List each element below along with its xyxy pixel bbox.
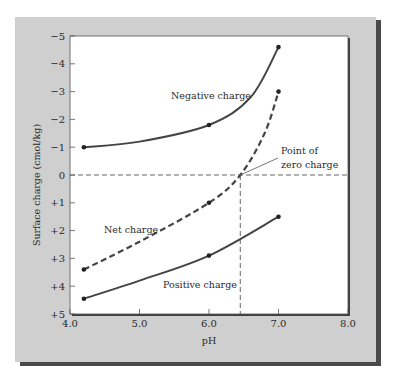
- chart-svg: −5−4−3−2−10+1+2+3+4+5 4.05.06.07.08.0 Ne…: [0, 0, 395, 386]
- figure: −5−4−3−2−10+1+2+3+4+5 4.05.06.07.08.0 Ne…: [0, 0, 395, 386]
- x-tick-label: 4.0: [62, 318, 78, 329]
- y-tick-label: −5: [50, 31, 65, 42]
- y-tick-label: +2: [50, 225, 65, 236]
- data-point-marker: [207, 201, 212, 206]
- data-point-marker: [82, 296, 87, 301]
- x-tick-label: 6.0: [201, 318, 217, 329]
- y-tick-label: −2: [50, 114, 65, 125]
- data-point-marker: [276, 214, 281, 219]
- y-axis-title: Surface charge (cmol/kg): [31, 124, 42, 246]
- x-tick-label: 8.0: [340, 318, 356, 329]
- y-tick-label: +3: [50, 253, 65, 264]
- data-point-marker: [82, 267, 87, 272]
- negative-charge-label: Negative charge: [171, 90, 251, 101]
- y-tick-label: +4: [50, 281, 65, 292]
- y-tick-label: +1: [50, 197, 65, 208]
- pzc-label-line1: Point of: [281, 145, 319, 156]
- data-point-marker: [276, 45, 281, 50]
- y-tick-label: −3: [50, 86, 65, 97]
- data-point-marker: [82, 145, 87, 150]
- y-tick-label: 0: [59, 170, 65, 181]
- y-tick-label: −1: [50, 142, 65, 153]
- x-tick-label: 7.0: [271, 318, 287, 329]
- data-point-marker: [276, 89, 281, 94]
- y-tick-label: −4: [50, 58, 65, 69]
- data-point-marker: [207, 253, 212, 258]
- positive-charge-label: Positive charge: [163, 279, 237, 290]
- data-point-marker: [207, 123, 212, 128]
- net-charge-label: Net charge: [104, 224, 158, 235]
- x-tick-label: 5.0: [132, 318, 148, 329]
- pzc-label-line2: zero charge: [281, 159, 339, 170]
- x-axis-title: pH: [202, 335, 216, 346]
